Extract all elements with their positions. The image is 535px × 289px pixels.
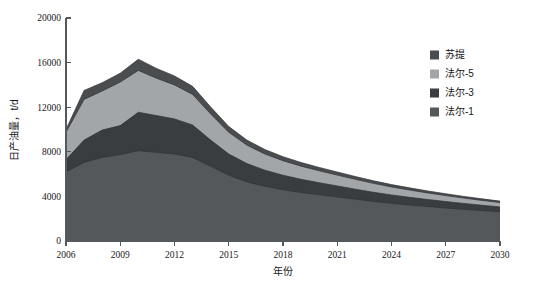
x-tick-label: 2009 (111, 250, 130, 260)
legend-label[interactable]: 法尔-3 (445, 86, 474, 98)
y-tick-label: 4000 (42, 192, 61, 202)
legend-swatch[interactable] (430, 108, 439, 117)
x-axis-title: 年份 (273, 265, 293, 277)
legend-label[interactable]: 苏提 (445, 48, 465, 60)
plot-areas (66, 59, 500, 241)
x-axis: 200620092012201520182021202420272030 (57, 241, 510, 260)
y-axis: 040008000120001600020000 (37, 13, 71, 246)
x-tick-label: 2015 (219, 250, 238, 260)
y-tick-label: 16000 (37, 58, 61, 68)
legend-label[interactable]: 法尔-1 (445, 105, 474, 117)
legend-label[interactable]: 法尔-5 (445, 67, 474, 79)
x-tick-label: 2012 (165, 250, 184, 260)
x-tick-label: 2030 (491, 250, 510, 260)
chart-container: 040008000120001600020000 200620092012201… (0, 0, 535, 289)
legend-swatch[interactable] (430, 51, 439, 60)
y-axis-title: 日产油量，t/d (8, 99, 20, 160)
x-tick-label: 2027 (436, 250, 455, 260)
x-tick-label: 2018 (274, 250, 293, 260)
x-tick-label: 2021 (328, 250, 347, 260)
y-tick-label: 12000 (37, 103, 61, 113)
legend-swatch[interactable] (430, 89, 439, 98)
legend-swatch[interactable] (430, 70, 439, 79)
y-tick-label: 8000 (42, 147, 61, 157)
legend: 苏提法尔-5法尔-3法尔-1 (430, 48, 474, 117)
stacked-area-chart: 040008000120001600020000 200620092012201… (0, 0, 535, 289)
y-tick-label: 0 (56, 236, 61, 246)
x-tick-label: 2006 (57, 250, 76, 260)
y-tick-label: 20000 (37, 13, 61, 23)
x-tick-label: 2024 (382, 250, 401, 260)
